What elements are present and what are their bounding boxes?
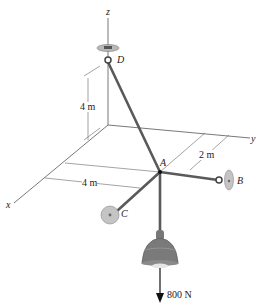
y-axis-label: y [251,134,255,144]
cables [108,62,218,232]
point-D-label: D [117,55,124,65]
x-axis [14,125,108,203]
x-axis-label: x [6,200,10,210]
point-B-label: B [237,176,243,186]
cable-AD [108,62,160,172]
dimension-x-label: 4 m [82,178,97,188]
z-axis-label: z [106,7,110,17]
cable-AC [117,172,160,211]
load-label: 800 N [167,290,192,300]
point-C-label: C [121,209,128,219]
load-arrow [156,268,164,303]
lamp [141,230,179,269]
dimension-lines [45,66,229,188]
support-B [216,170,234,190]
cable-AB [160,172,218,180]
y-axis [108,125,250,138]
point-A [158,170,162,174]
point-A-label: A [160,158,166,168]
dimension-y-label: 2 m [199,150,214,160]
dimension-height-label: 4 m [80,102,95,112]
statics-diagram [0,0,266,307]
support-C [101,206,119,224]
